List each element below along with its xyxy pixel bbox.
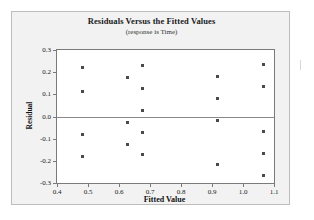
- x-axis-tick: [274, 183, 275, 187]
- y-axis-tick: [53, 50, 57, 51]
- x-axis-tick: [88, 183, 89, 187]
- y-axis-tick-label: 0.1: [42, 90, 51, 98]
- data-point: [262, 152, 265, 155]
- data-point: [126, 121, 129, 124]
- edge-artifact-mark: [300, 60, 301, 70]
- y-axis-tick: [53, 161, 57, 162]
- data-point: [216, 75, 219, 78]
- residual-plot-screenshot: Residuals Versus the Fitted Values (resp…: [0, 0, 314, 220]
- chart-subtitle: (response is Time): [12, 27, 291, 37]
- y-axis-title: Residual: [25, 49, 35, 182]
- figure-panel: Residuals Versus the Fitted Values (resp…: [11, 11, 290, 205]
- y-axis-tick-label: 0.3: [42, 46, 51, 54]
- data-point: [126, 76, 129, 79]
- y-axis-title-label: Residual: [26, 102, 35, 130]
- data-point: [262, 85, 265, 88]
- data-point: [262, 130, 265, 133]
- data-point: [141, 131, 144, 134]
- data-point: [216, 97, 219, 100]
- y-axis-tick: [53, 139, 57, 140]
- x-axis-title: Fitted Value: [56, 195, 273, 204]
- x-axis-tick: [150, 183, 151, 187]
- y-axis-tick-label: 0.2: [42, 68, 51, 76]
- y-axis-tick-label: -0.2: [40, 157, 51, 165]
- x-axis-tick: [243, 183, 244, 187]
- x-axis-tick: [119, 183, 120, 187]
- y-axis-tick: [53, 117, 57, 118]
- data-point: [262, 174, 265, 177]
- data-point: [81, 90, 84, 93]
- data-point: [81, 133, 84, 136]
- data-point: [216, 119, 219, 122]
- data-point: [141, 109, 144, 112]
- data-point: [141, 87, 144, 90]
- x-axis-tick: [181, 183, 182, 187]
- chart-title-block: Residuals Versus the Fitted Values (resp…: [12, 16, 291, 37]
- data-point: [126, 143, 129, 146]
- data-point: [216, 163, 219, 166]
- y-axis-tick-label: -0.3: [40, 179, 51, 187]
- data-point: [141, 153, 144, 156]
- y-axis-tick: [53, 94, 57, 95]
- data-point: [262, 63, 265, 66]
- plot-area: 0.30.20.10.0-0.1-0.2-0.30.40.50.60.70.80…: [56, 49, 275, 184]
- y-axis-tick-label: 0.0: [42, 113, 51, 121]
- page-title: Residuals Versus the Fitted Values: [12, 16, 291, 27]
- zero-reference-line: [57, 117, 274, 118]
- data-point: [81, 155, 84, 158]
- x-axis-tick: [212, 183, 213, 187]
- y-axis-tick: [53, 72, 57, 73]
- data-point: [141, 64, 144, 67]
- y-axis-tick-label: -0.1: [40, 135, 51, 143]
- x-axis-tick: [57, 183, 58, 187]
- data-point: [81, 66, 84, 69]
